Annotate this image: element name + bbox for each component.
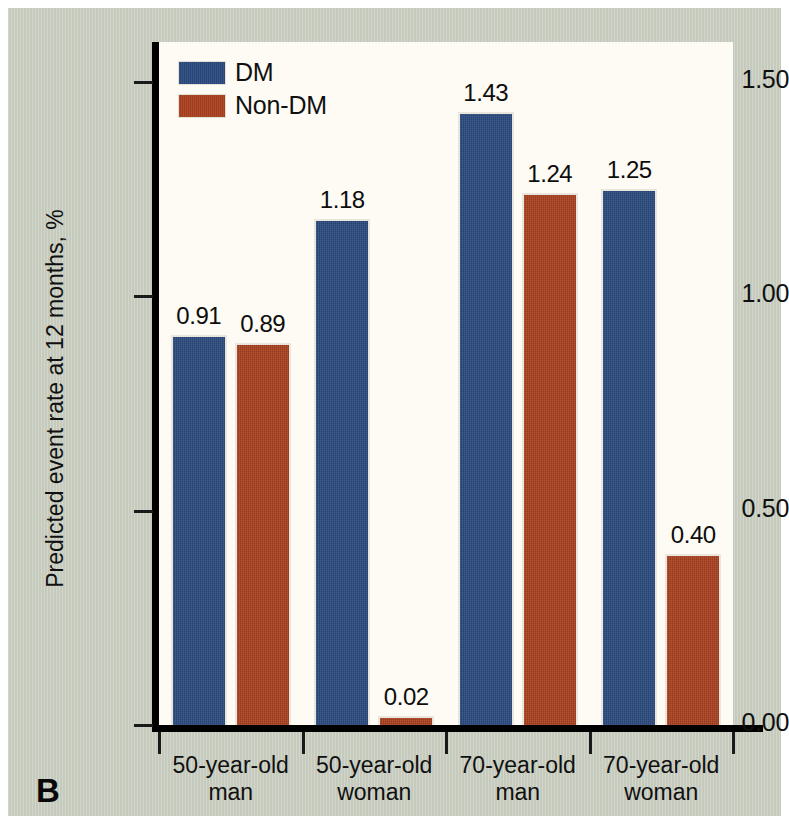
bar-non-dm-1 <box>378 716 434 725</box>
x-axis-category-separator <box>445 732 448 754</box>
category-label-line2: woman <box>590 779 734 806</box>
bar-value-label: 1.43 <box>436 79 536 107</box>
bar-dm-3 <box>601 189 657 725</box>
bar-value-label: 1.25 <box>579 156 679 184</box>
y-axis-tick-label: 0.50 <box>703 494 789 523</box>
bar-dm-1 <box>314 219 370 725</box>
x-axis-baseline <box>152 725 763 732</box>
y-axis-tick <box>134 295 153 298</box>
chart-legend: DM Non-DM <box>178 58 327 124</box>
legend-label-non-dm: Non-DM <box>235 91 327 120</box>
bar-non-dm-3 <box>665 554 721 725</box>
legend-item-dm: DM <box>178 58 327 87</box>
y-axis-title: Predicted event rate at 12 months, % <box>42 139 69 659</box>
category-label-line1: 70-year-old <box>603 752 719 778</box>
y-axis-tick <box>134 81 153 84</box>
category-label-line2: woman <box>303 779 447 806</box>
bar-dm-0 <box>171 335 227 725</box>
legend-swatch-dm <box>178 61 226 85</box>
y-axis-tick <box>134 724 153 727</box>
category-label-line1: 50-year-old <box>316 752 432 778</box>
x-axis-category-separator <box>302 732 305 754</box>
bar-dm-2 <box>458 112 514 725</box>
category-label-line2: man <box>159 779 303 806</box>
x-axis-category-label: 70-year-oldwoman <box>590 752 734 806</box>
bar-non-dm-0 <box>235 343 291 725</box>
x-axis-category-separator <box>732 732 735 754</box>
bar-value-label: 0.89 <box>213 310 313 338</box>
bar-value-label: 0.40 <box>643 521 743 549</box>
category-label-line1: 70-year-old <box>460 752 576 778</box>
category-label-line2: man <box>446 779 590 806</box>
bar-value-label: 0.02 <box>356 683 456 711</box>
y-axis-tick <box>134 510 153 513</box>
x-axis-category-separator <box>589 732 592 754</box>
bar-non-dm-2 <box>522 193 578 725</box>
bar-value-label: 1.18 <box>292 186 392 214</box>
y-axis-tick-label: 1.00 <box>703 279 789 308</box>
legend-swatch-non-dm <box>178 94 226 118</box>
figure-panel-b: 1.501.000.500.00 Predicted event rate at… <box>0 0 789 826</box>
x-axis-category-label: 50-year-oldman <box>159 752 303 806</box>
x-axis-category-label: 70-year-oldman <box>446 752 590 806</box>
legend-item-non-dm: Non-DM <box>178 91 327 120</box>
x-axis-category-separator <box>158 732 161 754</box>
legend-label-dm: DM <box>235 58 273 87</box>
y-axis-tick-label: 1.50 <box>703 65 789 94</box>
x-axis-category-label: 50-year-oldwoman <box>303 752 447 806</box>
category-label-line1: 50-year-old <box>173 752 289 778</box>
y-axis-spine <box>152 42 159 732</box>
panel-letter: B <box>36 772 60 810</box>
